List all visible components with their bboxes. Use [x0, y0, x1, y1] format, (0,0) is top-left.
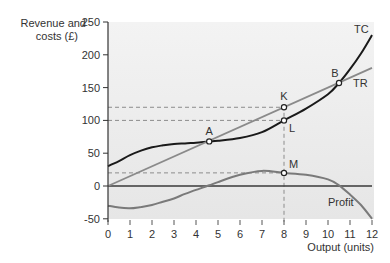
x-tick-label: 10 [322, 228, 334, 240]
x-tick-label: 1 [127, 228, 133, 240]
y-tick-label: 50 [88, 147, 100, 159]
y-tick-label: 150 [82, 82, 100, 94]
point-a [207, 139, 212, 144]
x-tick-label: 3 [171, 228, 177, 240]
x-tick-label: 0 [105, 228, 111, 240]
y-tick-label: -50 [84, 213, 100, 225]
x-tick-label: 2 [149, 228, 155, 240]
x-tick-label: 8 [281, 228, 287, 240]
x-tick-label: 12 [366, 228, 378, 240]
x-tick-label: 9 [303, 228, 309, 240]
point-label-a: A [206, 125, 214, 137]
point-label-b: B [331, 67, 338, 79]
point-k [281, 105, 286, 110]
point-m [281, 170, 286, 175]
point-label-m: M [289, 158, 298, 170]
y-tick-label: 0 [94, 180, 100, 192]
y-tick-label: 100 [82, 114, 100, 126]
y-tick-label: 200 [82, 49, 100, 61]
x-tick-label: 4 [193, 228, 199, 240]
point-b [336, 80, 341, 85]
point-label-k: K [280, 90, 288, 102]
x-tick-label: 5 [215, 228, 221, 240]
point-label-l: L [289, 122, 295, 134]
point-l [281, 118, 286, 123]
x-tick-label: 11 [344, 228, 355, 240]
x-axis-label: Output (units) [307, 241, 374, 253]
label-tr: TR [353, 77, 368, 89]
label-tc: TC [354, 23, 369, 35]
y-axis-label-line2: costs (£) [36, 30, 78, 42]
x-tick-label: 7 [259, 228, 265, 240]
revenue-cost-profit-chart: TCTRProfit -5005010015020025001234567891… [0, 0, 390, 263]
label-profit: Profit [328, 196, 354, 208]
y-axis-label-line1: Revenue and [21, 17, 86, 29]
x-tick-label: 6 [237, 228, 243, 240]
